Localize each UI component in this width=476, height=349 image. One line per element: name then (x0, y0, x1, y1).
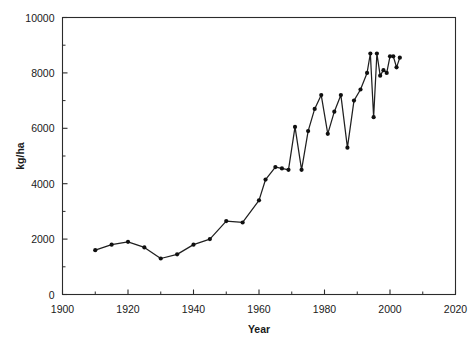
data-point (368, 51, 372, 55)
data-point (306, 129, 310, 133)
x-tick-label: 1900 (51, 303, 75, 315)
data-point (175, 252, 179, 256)
data-point (142, 245, 146, 249)
data-point (191, 243, 195, 247)
y-tick-label: 10000 (25, 12, 54, 24)
data-point (273, 165, 277, 169)
data-point (398, 56, 402, 60)
data-point (159, 256, 163, 260)
chart-container: 1900192019401960198020002020 02000400060… (0, 0, 476, 349)
data-point (394, 65, 398, 69)
x-tick-label: 1960 (247, 303, 271, 315)
data-point (293, 125, 297, 129)
data-point (381, 68, 385, 72)
data-point (313, 107, 317, 111)
data-point (299, 168, 303, 172)
data-point (385, 71, 389, 75)
data-point (241, 220, 245, 224)
data-point (110, 243, 114, 247)
data-point (365, 71, 369, 75)
data-point (358, 87, 362, 91)
data-point (93, 248, 97, 252)
y-tick-label: 6000 (31, 122, 55, 134)
data-point (224, 219, 228, 223)
y-tick-label: 4000 (31, 178, 55, 190)
data-point (352, 99, 356, 103)
chart-background (0, 0, 476, 349)
data-point (378, 74, 382, 78)
data-point (339, 93, 343, 97)
x-tick-label: 1920 (116, 303, 140, 315)
data-point (345, 146, 349, 150)
data-point (332, 110, 336, 114)
data-point (391, 54, 395, 58)
data-point (326, 132, 330, 136)
x-tick-label: 1980 (313, 303, 337, 315)
x-tick-label: 2020 (444, 303, 468, 315)
data-point (319, 93, 323, 97)
data-point (372, 115, 376, 119)
y-tick-label: 0 (49, 289, 55, 301)
data-point (263, 177, 267, 181)
data-point (257, 198, 261, 202)
y-axis-title: kg/ha (14, 142, 26, 170)
line-chart: 1900192019401960198020002020 02000400060… (0, 0, 476, 349)
data-point (208, 237, 212, 241)
y-tick-label: 8000 (31, 67, 55, 79)
data-point (375, 51, 379, 55)
data-point (126, 240, 130, 244)
y-tick-label: 2000 (31, 233, 55, 245)
x-tick-label: 1940 (182, 303, 206, 315)
x-tick-label: 2000 (378, 303, 402, 315)
data-point (280, 166, 284, 170)
data-point (286, 168, 290, 172)
x-axis-title: Year (248, 323, 270, 335)
